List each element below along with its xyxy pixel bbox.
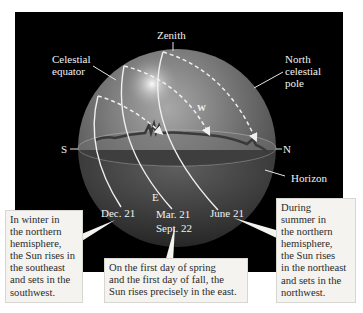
label-north: N [283, 143, 291, 155]
callout-equinox: On the first day of spring and the first… [104, 258, 248, 303]
sun-glow [126, 58, 178, 110]
label-june21: June 21 [210, 207, 244, 219]
label-west: W [197, 102, 206, 114]
label-dec21: Dec. 21 [101, 207, 135, 219]
label-mar21: Mar. 21 [156, 208, 190, 220]
callout-winter: In winter in the northern hemisphere, th… [5, 210, 83, 303]
label-horizon: Horizon [291, 172, 327, 184]
callout-summer: During summer in the northern hemisphere… [276, 198, 356, 303]
label-north-celestial-pole: North celestial pole [285, 53, 321, 89]
label-east: E [152, 191, 159, 203]
horizon-plane [78, 130, 276, 166]
label-sept22: Sept. 22 [156, 222, 192, 234]
label-zenith: Zenith [157, 29, 186, 41]
label-south: S [61, 143, 67, 155]
label-celestial-equator: Celestial equator [52, 53, 91, 77]
